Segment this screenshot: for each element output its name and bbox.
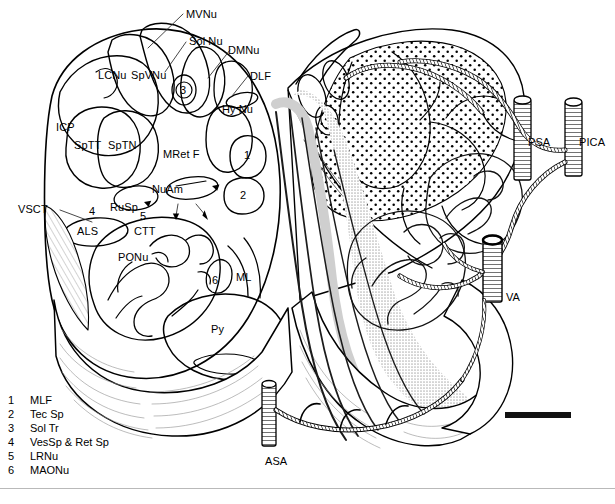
legend-item: 6 MAONu xyxy=(8,464,198,478)
label-psa: PSA xyxy=(528,137,550,148)
callout-1: 1 xyxy=(244,150,250,161)
label-dlf: DLF xyxy=(250,71,271,82)
legend-item: 3 Sol Tr xyxy=(8,422,198,436)
label-vsct: VSCT xyxy=(18,204,48,215)
legend-number: 2 xyxy=(8,408,30,420)
legend-label: MAONu xyxy=(30,464,69,476)
bottom-divider xyxy=(0,488,615,489)
legend-item: 5 LRNu xyxy=(8,450,198,464)
legend-number: 3 xyxy=(8,422,30,434)
label-sol-nu: Sol Nu xyxy=(189,36,223,47)
legend-label: Tec Sp xyxy=(30,408,64,420)
label-als: ALS xyxy=(77,226,98,237)
legend-label: LRNu xyxy=(30,450,58,462)
figure-container: MVNu Sol Nu DMNu DLF LCNu SpVNu ICP Hy N… xyxy=(0,0,615,504)
label-ponu: PONu xyxy=(118,252,148,263)
legend-number: 6 xyxy=(8,464,30,476)
legend-number: 5 xyxy=(8,450,30,462)
legend-item: 1 MLF xyxy=(8,394,198,408)
label-mret-f: MRet F xyxy=(163,149,200,160)
label-sptn: SpTN xyxy=(108,140,137,151)
callout-5: 5 xyxy=(140,211,146,222)
legend-number: 4 xyxy=(8,436,30,448)
callout-4: 4 xyxy=(89,206,95,217)
legend-item: 2 Tec Sp xyxy=(8,408,198,422)
label-sptt: SpTT xyxy=(74,140,101,151)
legend-item: 4 VesSp & Ret Sp xyxy=(8,436,198,450)
label-lcnu: LCNu xyxy=(98,70,127,81)
legend-number: 1 xyxy=(8,394,30,406)
label-ml: ML xyxy=(236,272,251,283)
legend-label: MLF xyxy=(30,394,52,406)
label-va: VA xyxy=(506,292,520,303)
label-mvnu: MVNu xyxy=(186,9,217,20)
callout-6: 6 xyxy=(212,275,218,286)
label-dmnu: DMNu xyxy=(228,45,260,56)
label-hy-nu: Hy Nu xyxy=(222,104,253,115)
label-rusp: RuSp xyxy=(110,202,138,213)
label-pica: PICA xyxy=(579,137,605,148)
callout-2: 2 xyxy=(240,190,246,201)
callout-3: 3 xyxy=(180,85,186,96)
legend: 1 MLF 2 Tec Sp 3 Sol Tr 4 VesSp & Ret Sp… xyxy=(8,394,198,478)
label-asa: ASA xyxy=(265,456,287,467)
label-nuam: NuAm xyxy=(152,184,183,195)
label-spvnu: SpVNu xyxy=(131,70,166,81)
label-py: Py xyxy=(211,324,224,335)
scale-bar xyxy=(505,412,571,418)
label-icp: ICP xyxy=(56,122,75,133)
legend-label: VesSp & Ret Sp xyxy=(30,436,109,448)
label-ctt: CTT xyxy=(134,226,156,237)
legend-label: Sol Tr xyxy=(30,422,59,434)
